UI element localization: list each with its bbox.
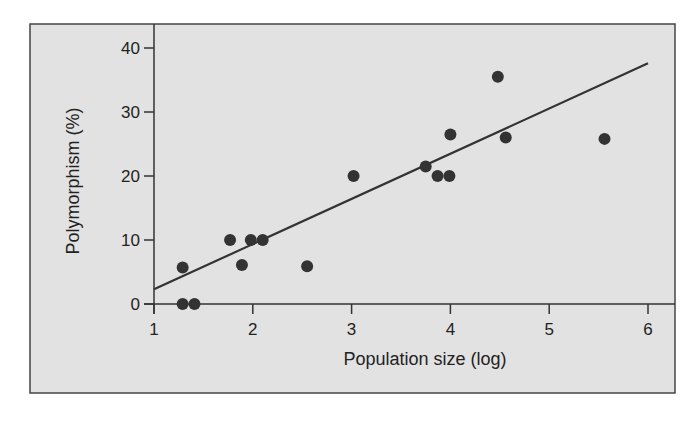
scatter-chart: 010203040 123456 Population size (log) P… bbox=[0, 0, 697, 421]
data-point bbox=[599, 133, 611, 145]
x-tick-label: 3 bbox=[347, 320, 356, 339]
data-point bbox=[177, 298, 189, 310]
data-point bbox=[257, 234, 269, 246]
x-tick-label: 6 bbox=[643, 320, 652, 339]
y-tick-label: 40 bbox=[121, 39, 140, 58]
data-point bbox=[189, 298, 201, 310]
y-axis-title: Polymorphism (%) bbox=[63, 107, 83, 254]
y-tick-label: 20 bbox=[121, 167, 140, 186]
data-point bbox=[444, 128, 456, 140]
data-point bbox=[301, 260, 313, 272]
data-point bbox=[492, 71, 504, 83]
x-axis-title: Population size (log) bbox=[343, 349, 506, 369]
data-point bbox=[177, 262, 189, 274]
x-tick-label: 2 bbox=[248, 320, 257, 339]
x-tick-label: 4 bbox=[446, 320, 455, 339]
data-point bbox=[348, 170, 360, 182]
x-tick-label: 1 bbox=[149, 320, 158, 339]
y-tick-label: 30 bbox=[121, 103, 140, 122]
y-tick-label: 0 bbox=[131, 295, 140, 314]
data-point bbox=[224, 234, 236, 246]
data-point bbox=[443, 170, 455, 182]
data-point bbox=[245, 234, 257, 246]
x-tick-label: 5 bbox=[544, 320, 553, 339]
y-tick-label: 10 bbox=[121, 231, 140, 250]
data-point bbox=[420, 160, 432, 172]
data-point bbox=[500, 132, 512, 144]
data-point bbox=[432, 170, 444, 182]
data-point bbox=[236, 259, 248, 271]
